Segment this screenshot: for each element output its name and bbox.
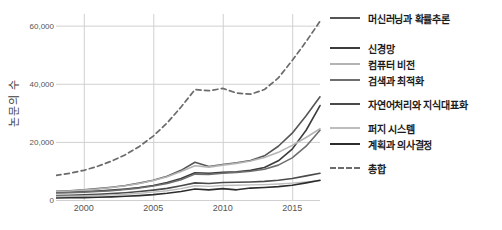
legend-line-swatch <box>330 47 360 49</box>
legend-item[interactable]: 총합 <box>330 161 386 175</box>
series-line <box>56 21 320 175</box>
legend-line-swatch <box>330 143 360 145</box>
plot-svg <box>56 14 322 202</box>
legend-item-label: 퍼지 시스템 <box>368 121 415 136</box>
legend-item[interactable]: 계획과 의사결정 <box>330 137 432 151</box>
legend-item-label: 계획과 의사결정 <box>368 137 432 152</box>
y-axis-tick-labels: 020,00040,00060,000 <box>6 0 54 230</box>
gridlines <box>56 14 320 201</box>
legend-line-swatch <box>330 79 360 81</box>
legend-line-swatch <box>330 167 360 169</box>
legend-item-label: 컴퓨터 비전 <box>368 57 415 72</box>
legend-item[interactable]: 신경망 <box>330 41 394 55</box>
y-axis-tick: 0 <box>10 196 54 205</box>
legend-item[interactable]: 검색과 최적화 <box>330 73 423 87</box>
legend-item[interactable]: 머신러닝과 확률추론 <box>330 11 450 25</box>
legend-item-label: 신경망 <box>368 41 394 56</box>
legend-line-swatch <box>330 103 360 105</box>
legend-item-label: 검색과 최적화 <box>368 73 423 88</box>
series-line <box>56 129 320 192</box>
chart-legend: 머신러닝과 확률추론신경망컴퓨터 비전검색과 최적화자연어처리와 지식대표화퍼지… <box>330 0 502 230</box>
legend-item-label: 머신러닝과 확률추론 <box>368 11 450 26</box>
legend-item[interactable]: 퍼지 시스템 <box>330 121 415 135</box>
legend-line-swatch <box>330 63 360 65</box>
legend-line-swatch <box>330 17 360 19</box>
y-axis-tick: 20,000 <box>10 137 54 146</box>
legend-item-label: 총합 <box>368 161 386 176</box>
plot-area <box>56 14 320 200</box>
chart-figure: 논문의 수 020,00040,00060,000 20002005201020… <box>0 0 502 230</box>
legend-line-swatch <box>330 127 360 129</box>
x-axis-tick: 2000 <box>74 203 94 213</box>
legend-item-label: 자연어처리와 지식대표화 <box>368 97 467 112</box>
x-axis-tick: 2015 <box>282 203 302 213</box>
legend-item[interactable]: 컴퓨터 비전 <box>330 57 415 71</box>
legend-item[interactable]: 자연어처리와 지식대표화 <box>330 97 467 111</box>
x-axis-tick: 2010 <box>213 203 233 213</box>
x-axis-tick: 2005 <box>143 203 163 213</box>
y-axis-tick: 60,000 <box>10 21 54 30</box>
y-axis-tick: 40,000 <box>10 79 54 88</box>
